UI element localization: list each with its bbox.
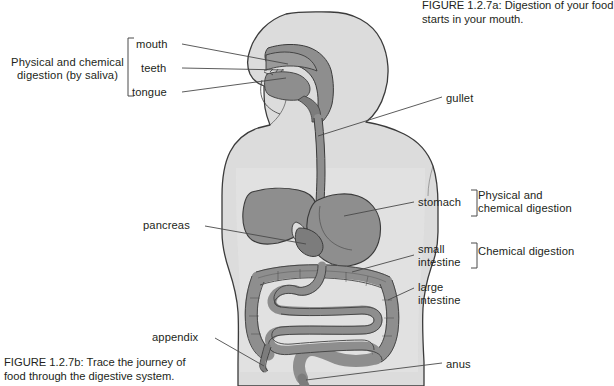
group-label-chemical-digestion: Chemical digestion	[478, 245, 574, 258]
bracket-chemical	[471, 243, 477, 268]
figure-caption-b: FIGURE 1.2.7b: Trace the journey of food…	[4, 356, 219, 383]
group-label-physical-chemical-digestion: Physical and chemical digestion	[478, 189, 572, 216]
group-label-saliva: Physical and chemical digestion (by sali…	[10, 56, 125, 83]
anus	[302, 378, 305, 386]
label-large-intestine: large intestine	[418, 281, 461, 308]
label-appendix: appendix	[152, 331, 198, 344]
label-teeth: teeth	[141, 62, 166, 75]
label-small-intestine: small intestine	[418, 243, 461, 270]
label-tongue: tongue	[132, 86, 167, 99]
label-stomach: stomach	[418, 196, 461, 209]
bracket-physical-chemical	[471, 190, 477, 216]
figure-caption-a: FIGURE 1.2.7a: Digestion of your food st…	[422, 0, 582, 26]
label-gullet: gullet	[446, 92, 473, 105]
label-mouth: mouth	[136, 38, 168, 51]
label-anus: anus	[446, 358, 471, 371]
label-pancreas: pancreas	[143, 219, 190, 232]
